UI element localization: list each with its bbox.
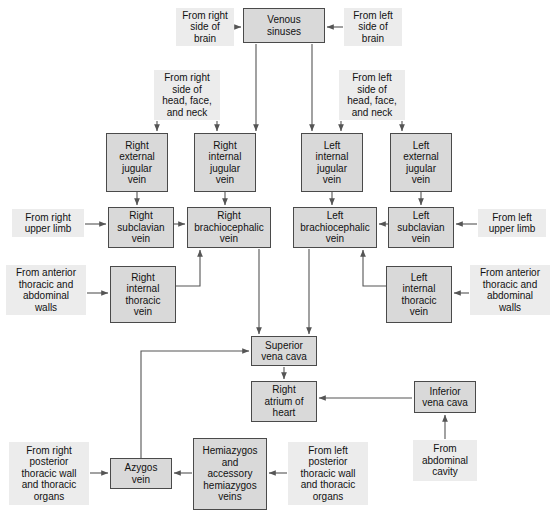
node-right-atrium-of-heart[interactable]: Right atrium of heart <box>251 381 317 422</box>
source-from-left-head-face-neck: From left side of head, face, and neck <box>339 70 405 120</box>
source-from-left-side-of-brain: From left side of brain <box>344 8 402 46</box>
node-left-subclavian-vein[interactable]: Left subclavian vein <box>388 207 454 248</box>
node-left-brachiocephalic-vein[interactable]: Left brachiocephalic vein <box>293 207 377 248</box>
node-left-internal-thoracic-vein[interactable]: Left internal thoracic vein <box>386 266 452 323</box>
source-from-right-upper-limb: From right upper limb <box>12 209 84 237</box>
node-inferior-vena-cava[interactable]: Inferior vena cava <box>414 381 476 413</box>
source-from-anterior-thoracic-abdominal-walls-left: From anterior thoracic and abdominal wal… <box>470 265 550 315</box>
node-left-external-jugular-vein[interactable]: Left external jugular vein <box>390 133 452 192</box>
node-hemiazygos-veins[interactable]: Hemiazygos and accessory hemiazygos vein… <box>193 438 267 510</box>
conn-left-internal-thoracic-to-left-brachiocephalic <box>363 250 386 286</box>
source-from-abdominal-cavity: From abdominal cavity <box>413 440 477 481</box>
source-from-right-side-of-brain: From right side of brain <box>176 8 234 46</box>
node-right-internal-jugular-vein[interactable]: Right internal jugular vein <box>194 133 256 192</box>
source-from-right-head-face-neck: From right side of head, face, and neck <box>154 70 220 120</box>
source-from-right-posterior-thoracic-wall: From right posterior thoracic wall and t… <box>9 442 89 505</box>
conn-right-internal-thoracic-to-right-brachiocephalic <box>176 250 200 286</box>
node-right-brachiocephalic-vein[interactable]: Right brachiocephalic vein <box>187 207 271 248</box>
source-from-anterior-thoracic-abdominal-walls-right: From anterior thoracic and abdominal wal… <box>6 265 86 315</box>
node-right-internal-thoracic-vein[interactable]: Right internal thoracic vein <box>110 266 176 323</box>
source-from-left-posterior-thoracic-wall: From left posterior thoracic wall and th… <box>288 442 368 505</box>
node-superior-vena-cava[interactable]: Superior vena cava <box>251 336 317 366</box>
venous-drainage-flowchart: Venous sinuses Right external jugular ve… <box>0 0 551 519</box>
source-from-left-upper-limb: From left upper limb <box>478 209 546 237</box>
node-left-internal-jugular-vein[interactable]: Left internal jugular vein <box>301 133 363 192</box>
node-venous-sinuses[interactable]: Venous sinuses <box>243 8 325 43</box>
node-right-external-jugular-vein[interactable]: Right external jugular vein <box>106 133 168 192</box>
node-azygos-vein[interactable]: Azygos vein <box>110 458 172 489</box>
node-right-subclavian-vein[interactable]: Right subclavian vein <box>108 207 174 248</box>
